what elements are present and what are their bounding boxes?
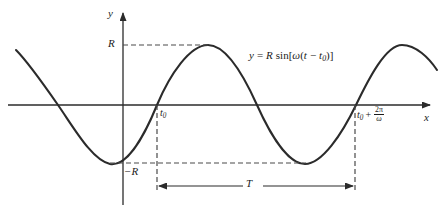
sine-wave-figure: y x R −R t0 T t0+2πω y=Rsin[ω(t−t0)] xyxy=(0,0,443,213)
phase-end-label: t0+2πω xyxy=(357,106,384,123)
period-label: T xyxy=(246,178,252,189)
equation-function: sin xyxy=(276,49,289,61)
phase-start-label: t0 xyxy=(160,108,166,120)
amplitude-positive-label: R xyxy=(108,38,115,49)
phase-start-subscript: 0 xyxy=(163,112,167,120)
equation-minus: − xyxy=(310,49,316,61)
equation-close-bracket: ] xyxy=(330,49,334,61)
equation-variable: t xyxy=(304,49,307,61)
phase-end-subscript: 0 xyxy=(360,114,364,122)
equation-equals: = xyxy=(257,49,263,61)
x-axis-label: x xyxy=(424,112,429,123)
phase-end-operator: + xyxy=(365,109,371,120)
equation-annotation: y=Rsin[ω(t−t0)] xyxy=(249,50,333,63)
equation-lhs: y xyxy=(249,49,254,61)
equation-amplitude: R xyxy=(266,49,273,61)
phase-end-fraction: 2πω xyxy=(374,106,384,123)
amplitude-negative-label: −R xyxy=(124,166,138,177)
phase-end-denominator: ω xyxy=(374,115,384,123)
equation-omega: ω xyxy=(292,49,300,61)
y-axis-label: y xyxy=(108,8,113,19)
